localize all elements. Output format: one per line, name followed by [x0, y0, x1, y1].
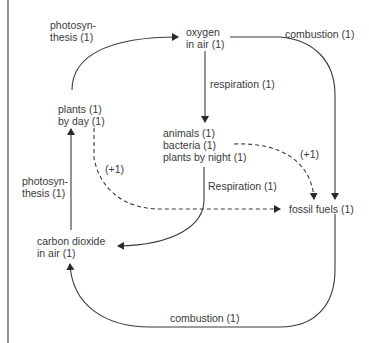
edge-label-combustion-top-line1: combustion (1) [285, 28, 354, 40]
edge-label-photosynthesis-top-line1: photosyn- [50, 19, 96, 31]
node-respirers-line3: plants by night (1) [163, 151, 246, 163]
node-co2-line2: in air (1) [37, 247, 105, 259]
carbon-cycle-diagram: oxygen in air (1) plants (1) by day (1) … [0, 0, 369, 343]
edge-label-combustion-bottom-line1: combustion (1) [170, 312, 239, 324]
edge-label-respiration-co2-line1: Respiration (1) [208, 180, 277, 192]
node-fossil-fuels-line1: fossil fuels (1) [289, 203, 354, 215]
node-plants-by-day: plants (1) by day (1) [58, 103, 105, 127]
node-co2-line1: carbon dioxide [37, 235, 105, 247]
edge-label-respiration-line1: respiration (1) [210, 78, 275, 90]
node-plants-line2: by day (1) [58, 115, 105, 127]
edge-label-plus-one-left-line1: (+1) [105, 163, 124, 175]
photosynthesis-arrow [72, 37, 178, 90]
edge-label-respiration: respiration (1) [210, 78, 275, 90]
node-oxygen-line1: oxygen [186, 26, 225, 38]
edge-label-photosynthesis-top-line2: thesis (1) [50, 31, 96, 43]
edge-label-photosynthesis-left-line1: photosyn- [22, 175, 68, 187]
node-respirers-line1: animals (1) [163, 127, 246, 139]
node-respirers: animals (1) bacteria (1) plants by night… [163, 127, 246, 163]
node-carbon-dioxide: carbon dioxide in air (1) [37, 235, 105, 259]
edge-label-plus-one-left: (+1) [105, 163, 124, 175]
respiration-co2-arrow [118, 167, 204, 246]
edge-label-combustion-top: combustion (1) [285, 28, 354, 40]
combustion-top-arrow [230, 37, 335, 199]
node-oxygen-line2: in air (1) [186, 38, 225, 50]
edge-label-combustion-bottom: combustion (1) [170, 312, 239, 324]
node-respirers-line2: bacteria (1) [163, 139, 246, 151]
edge-label-respiration-co2: Respiration (1) [208, 180, 277, 192]
edge-label-plus-one-right-line1: (+1) [300, 148, 319, 160]
edge-label-photosynthesis-left-line2: thesis (1) [22, 187, 68, 199]
edge-label-plus-one-right: (+1) [300, 148, 319, 160]
edge-label-photosynthesis-left: photosyn- thesis (1) [22, 175, 68, 199]
edge-label-photosynthesis-top: photosyn- thesis (1) [50, 19, 96, 43]
node-oxygen: oxygen in air (1) [186, 26, 225, 50]
diagram-arrows [0, 0, 369, 343]
node-fossil-fuels: fossil fuels (1) [289, 203, 354, 215]
combustion-bottom-arrow [70, 214, 335, 327]
node-plants-line1: plants (1) [58, 103, 105, 115]
